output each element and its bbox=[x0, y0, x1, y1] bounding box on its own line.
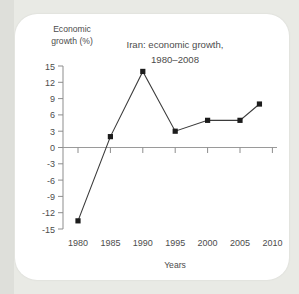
chart-title-line2: 1980–2008 bbox=[151, 54, 199, 65]
figure-card: Economic growth (%) Iran: economic growt… bbox=[15, 14, 289, 280]
x-tick-label-1980: 1980 bbox=[68, 238, 88, 248]
y-axis-label-line1: Economic bbox=[53, 24, 91, 34]
economic-growth-line-chart: Economic growth (%) Iran: economic growt… bbox=[15, 14, 289, 280]
data-point-1990 bbox=[140, 69, 145, 74]
chart-plot-area: Economic growth (%) Iran: economic growt… bbox=[15, 14, 289, 280]
data-point-1995 bbox=[173, 129, 178, 134]
data-point-1980 bbox=[75, 218, 80, 223]
data-point-2000 bbox=[205, 118, 210, 123]
y-tick-label-3: 3 bbox=[50, 127, 55, 137]
x-tick-label-1985: 1985 bbox=[100, 238, 120, 248]
growth-series-markers bbox=[75, 69, 262, 224]
y-tick-label-15: 15 bbox=[45, 62, 55, 72]
page-margin-strip bbox=[0, 0, 14, 294]
y-tick-label-neg6: -6 bbox=[47, 176, 55, 186]
y-tick-label-neg9: -9 bbox=[47, 192, 55, 202]
chart-title-line1: Iran: economic growth, bbox=[126, 39, 223, 50]
y-tick-label-neg15: -15 bbox=[42, 225, 55, 235]
x-tick-label-1990: 1990 bbox=[133, 238, 153, 248]
x-tick-group bbox=[78, 148, 272, 154]
y-tick-label-6: 6 bbox=[50, 110, 55, 120]
growth-series-line bbox=[78, 71, 259, 220]
y-axis-label-line2: growth (%) bbox=[51, 36, 93, 46]
y-tick-label-neg3: -3 bbox=[47, 159, 55, 169]
x-axis-label: Years bbox=[164, 260, 186, 270]
x-tick-label-group: 1980 1985 1990 1995 2000 2005 2010 bbox=[68, 238, 282, 248]
x-tick-label-2000: 2000 bbox=[198, 238, 218, 248]
y-tick-label-9: 9 bbox=[50, 94, 55, 104]
x-tick-label-1995: 1995 bbox=[165, 238, 185, 248]
y-tick-label-0: 0 bbox=[50, 143, 55, 153]
data-point-2008 bbox=[257, 101, 262, 106]
x-tick-label-2005: 2005 bbox=[230, 238, 250, 248]
data-point-1985 bbox=[108, 134, 113, 139]
y-tick-group: 15 12 9 6 3 0 -3 -6 -9 -12 bbox=[42, 62, 63, 235]
x-tick-label-2010: 2010 bbox=[262, 238, 282, 248]
y-tick-label-12: 12 bbox=[45, 78, 55, 88]
data-point-2005 bbox=[237, 118, 242, 123]
y-tick-label-neg12: -12 bbox=[42, 208, 55, 218]
